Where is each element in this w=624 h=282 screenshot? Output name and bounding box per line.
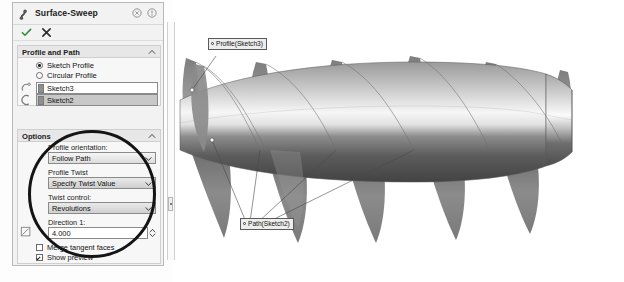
path-callout[interactable]: Path(Sketch2) <box>240 218 294 230</box>
direction-angle-icon <box>20 226 32 238</box>
profile-twist-dropdown[interactable]: Specify Twist Value <box>48 177 156 189</box>
radio-circular-profile[interactable]: Circular Profile <box>36 71 97 80</box>
profile-field-swatch <box>38 84 44 93</box>
path-callout-label: Path(Sketch2) <box>248 220 290 227</box>
direction1-value: 4.000 <box>52 229 71 238</box>
chevron-down-icon <box>145 156 152 162</box>
path-field-swatch <box>38 96 44 105</box>
graphics-viewport[interactable]: Profile(Sketch3) Path(Sketch2) <box>174 0 624 282</box>
chevron-down-icon <box>145 181 152 187</box>
profile-orientation-label: Profile orientation: <box>48 143 108 152</box>
profile-and-path-group: Sketch Profile Circular Profile Sketch3 … <box>17 58 161 106</box>
app-root: Profile(Sketch3) Path(Sketch2) Surface-S… <box>0 0 624 282</box>
twist-control-label: Twist control: <box>48 193 91 202</box>
chevron-up-icon[interactable] <box>148 48 156 56</box>
section-options[interactable]: Options <box>17 129 161 142</box>
profile-orientation-value: Follow Path <box>52 154 91 163</box>
show-preview-label: Show preview <box>47 253 93 262</box>
check-icon[interactable] <box>21 27 32 38</box>
panel-title: Surface-Sweep <box>35 8 98 18</box>
sweep-body <box>180 62 546 182</box>
pin-icon[interactable] <box>132 8 142 18</box>
callout-anchor-dot <box>243 222 246 225</box>
panel-header-icons <box>132 8 157 18</box>
close-icon[interactable] <box>41 27 52 38</box>
profile-callout[interactable]: Profile(Sketch3) <box>208 38 267 50</box>
confirm-bar <box>13 25 163 41</box>
direction1-label: Direction 1: <box>48 218 85 227</box>
help-icon[interactable] <box>147 8 157 18</box>
direction1-input[interactable]: 4.000 <box>48 227 148 239</box>
sweep-body-right <box>546 74 572 166</box>
spinner-icon[interactable] <box>149 227 156 239</box>
path-field[interactable]: Sketch2 <box>36 94 158 106</box>
radio-sketch-profile-label: Sketch Profile <box>47 61 94 70</box>
show-preview-checkbox[interactable]: Show preview <box>36 253 93 262</box>
panel-header: Surface-Sweep <box>13 3 163 25</box>
section-options-label: Options <box>22 132 51 141</box>
callout-anchor-dot <box>211 42 214 45</box>
checkbox-indicator <box>36 244 43 251</box>
merge-tangent-faces-label: Merge tangent faces <box>47 243 114 252</box>
twist-control-value: Revolutions <box>52 204 91 213</box>
profile-field[interactable]: Sketch3 <box>36 82 158 94</box>
sweep-icon <box>19 8 32 21</box>
path-select-icon <box>21 94 33 106</box>
section-profile-and-path[interactable]: Profile and Path <box>17 45 161 58</box>
profile-orientation-dropdown[interactable]: Follow Path <box>48 152 156 164</box>
options-group: Profile orientation: Follow Path Profile… <box>17 142 161 264</box>
profile-callout-label: Profile(Sketch3) <box>216 40 263 47</box>
checkbox-indicator <box>36 254 43 261</box>
profile-field-value: Sketch3 <box>47 84 74 93</box>
chevron-down-icon <box>145 206 152 212</box>
panel-splitter[interactable] <box>167 22 175 260</box>
radio-sketch-profile[interactable]: Sketch Profile <box>36 61 94 70</box>
profile-select-icon <box>21 82 33 94</box>
merge-tangent-faces-checkbox[interactable]: Merge tangent faces <box>36 243 114 252</box>
property-manager-panel: Surface-Sweep <box>12 2 164 266</box>
radio-indicator <box>36 62 43 69</box>
splitter-grip[interactable] <box>168 197 173 211</box>
chevron-up-icon[interactable] <box>148 132 156 140</box>
section-profile-and-path-label: Profile and Path <box>22 48 80 57</box>
radio-indicator <box>36 72 43 79</box>
path-field-value: Sketch2 <box>47 96 74 105</box>
profile-twist-label: Profile Twist <box>48 168 88 177</box>
twist-control-dropdown[interactable]: Revolutions <box>48 202 156 214</box>
radio-circular-profile-label: Circular Profile <box>47 71 97 80</box>
profile-twist-value: Specify Twist Value <box>52 179 115 188</box>
